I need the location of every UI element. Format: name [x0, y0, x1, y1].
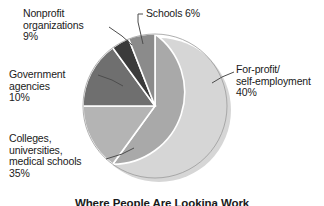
pie-chart-figure: Nonprofit organizations 9% Schools 6% Go…	[0, 0, 324, 206]
slice-label-colleges-universities-medical-schools: Colleges, universities, medical schools …	[9, 133, 107, 179]
slice-label-schools: Schools 6%	[146, 8, 226, 20]
chart-caption: Where People Are Lookina Work	[0, 197, 324, 206]
slice-label-nonprofit-organizations: Nonprofit organizations 9%	[23, 8, 109, 43]
slice-label-for-profit-self-employment: For-profit/ self-employment 40%	[236, 64, 322, 99]
slice-label-government-agencies: Government agencies 10%	[9, 69, 97, 104]
